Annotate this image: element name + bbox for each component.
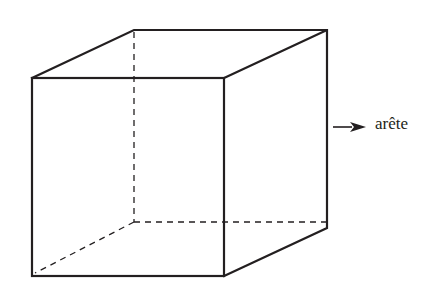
visible-edges xyxy=(32,30,327,276)
edge-label: arête xyxy=(375,114,408,134)
cube-diagram xyxy=(0,0,445,299)
hidden-edge-diagonal xyxy=(35,222,134,273)
top-face-edges xyxy=(32,30,327,78)
hidden-edges xyxy=(35,32,327,273)
front-face xyxy=(32,78,224,276)
right-face-edges xyxy=(224,30,327,276)
arrow-icon xyxy=(333,122,366,132)
